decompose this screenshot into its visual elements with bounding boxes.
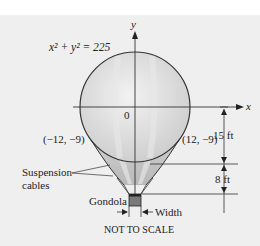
balloon-diagram: y x 0 x² + y² = 225 (−12, −9) (12, −9) 1…	[0, 0, 260, 246]
point-label-left: (−12, −9)	[43, 134, 85, 145]
suspension-label-line1: Suspension	[22, 167, 72, 178]
dimension-label-15ft: 15 ft	[213, 130, 233, 141]
x-axis-label: x	[246, 101, 251, 112]
origin-label: 0	[124, 110, 130, 121]
y-axis-label: y	[131, 19, 136, 30]
dimension-label-8ft: 8 ft	[215, 174, 230, 185]
diagram-canvas	[0, 0, 260, 246]
suspension-label-line2: cables	[22, 180, 49, 191]
gondola-rim	[129, 194, 141, 197]
equation-label: x² + y² = 225	[49, 42, 110, 54]
not-to-scale-label: NOT TO SCALE	[104, 225, 174, 235]
width-label: Width	[155, 207, 182, 218]
gondola-label: Gondola	[89, 196, 127, 207]
